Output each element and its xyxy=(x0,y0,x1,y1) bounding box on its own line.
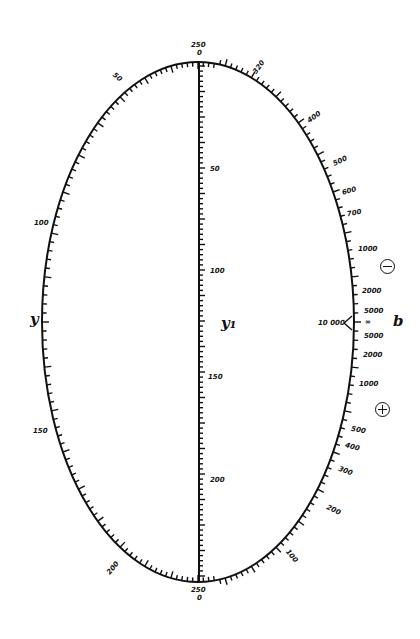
right-label-10000: 10 000 xyxy=(318,320,345,327)
center-label-200: 200 xyxy=(210,477,225,484)
center-bottom-zero: 0 xyxy=(197,595,202,602)
left-label-100: 100 xyxy=(34,220,49,227)
axis-label-y1: y₁ xyxy=(221,316,236,331)
nomogram-svg xyxy=(0,0,420,639)
center-bottom-label: 250 xyxy=(191,587,206,594)
minus-sign-icon xyxy=(380,259,395,274)
center-label-50: 50 xyxy=(210,166,220,173)
center-top-label: 250 xyxy=(191,42,206,49)
right-label-1000: 1000 xyxy=(358,246,377,253)
right-label-5000-pos: 5000 xyxy=(364,333,383,340)
center-label-100: 100 xyxy=(210,268,225,275)
axis-label-b: b xyxy=(393,314,404,329)
left-label-150: 150 xyxy=(33,428,48,435)
right-label-infinity: ∞ xyxy=(365,319,371,326)
center-top-zero: 0 xyxy=(197,50,202,57)
axis-label-y: y xyxy=(30,312,39,327)
center-label-150: 150 xyxy=(208,374,223,381)
scale-ticks xyxy=(42,59,361,585)
plus-sign-icon xyxy=(375,402,390,417)
right-label-2000-pos: 2000 xyxy=(363,352,382,359)
right-label-2000: 2000 xyxy=(362,288,381,295)
right-label-5000-neg: 5000 xyxy=(364,308,383,315)
right-label-1000-pos: 1000 xyxy=(359,381,378,388)
